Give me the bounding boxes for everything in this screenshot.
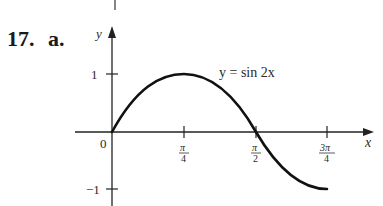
tick-pi2-den: 2 <box>253 153 258 164</box>
tick-pi4-den: 4 <box>181 153 186 164</box>
y-label-neg1: −1 <box>86 182 100 197</box>
sine-graph: y x 1 −1 0 π 4 π 2 3π 4 y = sin 2x <box>0 0 383 206</box>
tick-pi2-num: π <box>252 142 258 153</box>
y-label-1: 1 <box>91 67 98 82</box>
origin-label: 0 <box>100 136 107 151</box>
y-axis-label: y <box>94 26 102 41</box>
tick-pi4-num: π <box>180 142 186 153</box>
tick-3pi4-den: 4 <box>324 153 329 164</box>
curve-annotation: y = sin 2x <box>219 65 275 80</box>
y-axis-arrow-icon <box>108 26 116 38</box>
x-axis-label: x <box>364 135 372 150</box>
tick-3pi4-num: 3π <box>319 142 331 153</box>
